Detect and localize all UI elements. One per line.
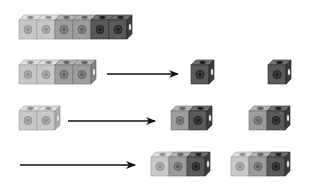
cube-train — [151, 152, 210, 176]
cube-train — [249, 106, 290, 130]
connector-peg-icon — [208, 114, 211, 121]
row-2 — [19, 60, 291, 84]
cube-train — [19, 15, 132, 39]
connector-peg-icon — [286, 160, 289, 167]
cube-train — [19, 106, 60, 130]
cube-train — [171, 106, 212, 130]
scene — [19, 15, 291, 176]
connector-peg-icon — [92, 68, 95, 75]
cube-diagram — [0, 0, 314, 187]
connector-peg-icon — [287, 68, 290, 75]
cube-train — [231, 152, 290, 176]
row-4 — [20, 152, 290, 176]
connector-peg-icon — [286, 114, 289, 121]
connector-peg-icon — [56, 114, 59, 121]
row-1-full-train — [19, 15, 132, 39]
cube-train — [19, 60, 96, 84]
row-3 — [19, 106, 290, 130]
connector-peg-icon — [210, 68, 213, 75]
cube-train — [268, 60, 291, 84]
connector-peg-icon — [128, 23, 131, 30]
connector-peg-icon — [206, 160, 209, 167]
cube-train — [191, 60, 214, 84]
